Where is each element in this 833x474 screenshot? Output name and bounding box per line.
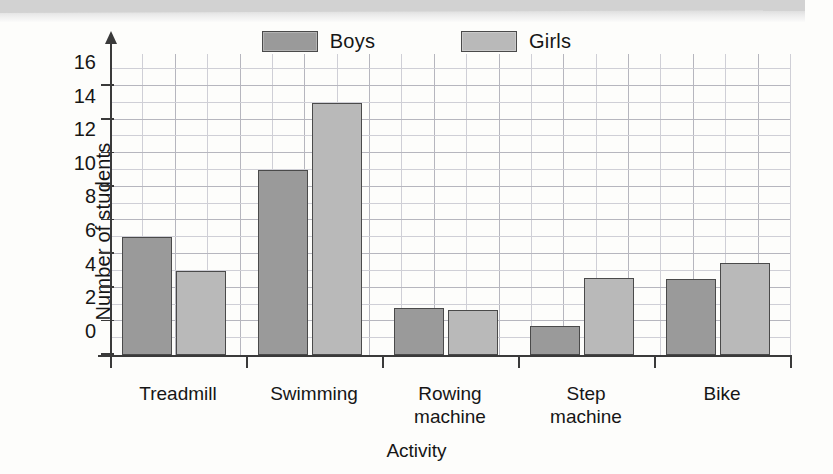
x-tick [110, 355, 112, 368]
y-tick [101, 353, 114, 355]
x-axis-category-labels: TreadmillSwimmingRowingmachineStepmachin… [110, 382, 790, 442]
bar-girls-treadmill [176, 271, 226, 355]
y-axis-line [110, 42, 112, 355]
legend-item-boys: Boys [262, 30, 375, 53]
y-tick-label: 16 [74, 51, 96, 74]
x-category-label-step-machine: Stepmachine [518, 382, 654, 428]
bar-chart-figure: BoysGirls Number of students 02468101214… [0, 22, 833, 474]
bar-boys-treadmill [122, 237, 172, 355]
y-tick [101, 219, 114, 221]
gridline-horizontal [110, 85, 790, 86]
y-tick-label: 14 [74, 85, 96, 108]
x-tick [246, 355, 248, 368]
gridline-horizontal [110, 102, 790, 103]
gridline-horizontal [110, 186, 790, 187]
bar-girls-step-machine [584, 278, 634, 355]
y-tick-label: 12 [74, 118, 96, 141]
legend-swatch-boys [262, 31, 318, 52]
x-category-label-line: machine [382, 405, 518, 428]
y-axis-arrow-icon [105, 31, 117, 44]
bar-girls-bike [720, 263, 770, 356]
bar-boys-bike [666, 279, 716, 355]
bar-boys-rowing-machine [394, 308, 444, 355]
y-tick [101, 185, 114, 187]
gridline-horizontal [110, 119, 790, 120]
y-tick-label: 0 [85, 320, 96, 343]
y-tick [101, 320, 114, 322]
gridline-horizontal [110, 135, 790, 136]
x-axis-line [98, 355, 792, 357]
x-tick [790, 355, 792, 368]
bar-boys-step-machine [530, 326, 580, 355]
gridline-horizontal [110, 253, 790, 254]
plot-area: 0246810121416 [110, 64, 790, 355]
legend-label-girls: Girls [529, 30, 571, 53]
y-tick-label: 2 [85, 286, 96, 309]
x-category-label-swimming: Swimming [246, 382, 382, 405]
x-category-label-bike: Bike [654, 382, 790, 405]
y-tick-label: 6 [85, 219, 96, 242]
y-tick-label: 4 [85, 253, 96, 276]
x-tick [654, 355, 656, 368]
y-tick [101, 84, 114, 86]
gridline-horizontal [110, 236, 790, 237]
x-category-label-line: Step [518, 382, 654, 405]
x-axis-title: Activity [0, 440, 833, 462]
gridline-horizontal [110, 152, 790, 153]
x-category-label-line: Treadmill [110, 382, 246, 405]
y-tick-label: 8 [85, 185, 96, 208]
x-category-label-line: Swimming [246, 382, 382, 405]
y-tick [101, 252, 114, 254]
y-tick [101, 286, 114, 288]
x-tick [382, 355, 384, 368]
gridline-horizontal [110, 68, 790, 69]
x-category-label-line: Rowing [382, 382, 518, 405]
x-category-label-line: Bike [654, 382, 790, 405]
legend-label-boys: Boys [330, 30, 375, 53]
gridline-horizontal [110, 203, 790, 204]
y-tick [101, 152, 114, 154]
legend-swatch-girls [461, 31, 517, 52]
x-category-label-treadmill: Treadmill [110, 382, 246, 405]
gridline-vertical [790, 54, 791, 355]
y-tick [101, 118, 114, 120]
x-category-label-rowing-machine: Rowingmachine [382, 382, 518, 428]
bar-boys-swimming [258, 170, 308, 355]
y-tick-label: 10 [74, 152, 96, 175]
bar-girls-rowing-machine [448, 310, 498, 355]
x-tick [518, 355, 520, 368]
scanned-page-corner [805, 0, 833, 24]
chart-legend: BoysGirls [0, 26, 833, 56]
gridline-horizontal [110, 169, 790, 170]
scanned-page-top-edge [0, 0, 833, 22]
gridline-horizontal [110, 219, 790, 220]
x-category-label-line: machine [518, 405, 654, 428]
legend-item-girls: Girls [461, 30, 571, 53]
bar-girls-swimming [312, 103, 362, 355]
